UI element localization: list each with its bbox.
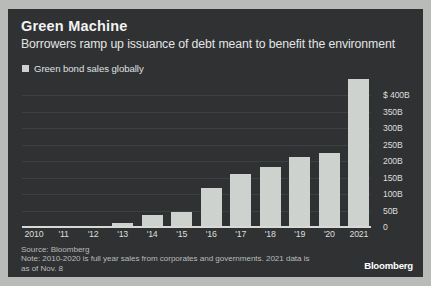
- x-axis-tick: '12: [81, 229, 105, 239]
- x-axis-tick: '13: [111, 229, 135, 239]
- chart-header: Green Machine Borrowers ramp up issuance…: [21, 18, 413, 52]
- x-axis-tick: 2021: [347, 229, 371, 239]
- legend-swatch-icon: [22, 65, 29, 72]
- footnote: Source: Bloomberg Note: 2010-2020 is ful…: [21, 245, 351, 273]
- plot-area: [22, 79, 371, 227]
- bar-16: [201, 188, 222, 227]
- legend-label: Green bond sales globally: [34, 63, 144, 74]
- bar-slot: [347, 79, 371, 227]
- x-axis-tick: '11: [52, 229, 76, 239]
- bar-slot: [317, 79, 341, 227]
- bar-slot: [22, 79, 46, 227]
- footnote-note-line1: Note: 2010-2020 is full year sales from …: [21, 254, 351, 263]
- page-title: Green Machine: [21, 18, 413, 35]
- x-axis-tick: '15: [170, 229, 194, 239]
- x-axis-tick: '18: [258, 229, 282, 239]
- x-axis-tick: '17: [229, 229, 253, 239]
- bar-slot: [81, 79, 105, 227]
- bar-17: [230, 174, 251, 227]
- chart-figure: Green Machine Borrowers ramp up issuance…: [8, 9, 423, 277]
- bar-slot: [199, 79, 223, 227]
- y-axis: 050B100B150B200B250B300B350B$ 400B: [380, 79, 423, 227]
- bar-series: [22, 79, 371, 227]
- bar-slot: [140, 79, 164, 227]
- x-axis: 2010'11'12'13'14'15'16'17'18'19'202021: [22, 229, 371, 239]
- x-axis-tick: '20: [317, 229, 341, 239]
- footnote-source: Source: Bloomberg: [21, 245, 351, 254]
- y-axis-tick: 250B: [383, 140, 403, 150]
- bar-18: [260, 167, 281, 227]
- y-axis-tick: 100B: [383, 189, 403, 199]
- bar-19: [289, 157, 310, 227]
- bar-slot: [52, 79, 76, 227]
- bar-slot: [229, 79, 253, 227]
- bar-slot: [258, 79, 282, 227]
- y-axis-tick: 0: [383, 222, 388, 232]
- bar-slot: [111, 79, 135, 227]
- y-axis-tick: 50B: [383, 206, 398, 216]
- x-axis-line: [22, 226, 371, 228]
- y-axis-tick: 350B: [383, 107, 403, 117]
- x-axis-tick: 2010: [22, 229, 46, 239]
- x-axis-tick: '14: [140, 229, 164, 239]
- x-axis-tick: '16: [199, 229, 223, 239]
- bar-slot: [288, 79, 312, 227]
- footnote-note-line2: as of Nov. 8: [21, 264, 351, 273]
- bloomberg-logo: Bloomberg: [364, 260, 413, 271]
- bar-20: [319, 153, 340, 227]
- y-axis-tick: 300B: [383, 123, 403, 133]
- y-axis-tick: 200B: [383, 156, 403, 166]
- y-axis-tick: $ 400B: [383, 90, 410, 100]
- bar-2021: [348, 79, 369, 227]
- bar-slot: [170, 79, 194, 227]
- chart-legend: Green bond sales globally: [22, 63, 144, 74]
- x-axis-tick: '19: [288, 229, 312, 239]
- chart-subtitle: Borrowers ramp up issuance of debt meant…: [21, 36, 413, 52]
- bar-15: [171, 212, 192, 227]
- y-axis-tick: 150B: [383, 173, 403, 183]
